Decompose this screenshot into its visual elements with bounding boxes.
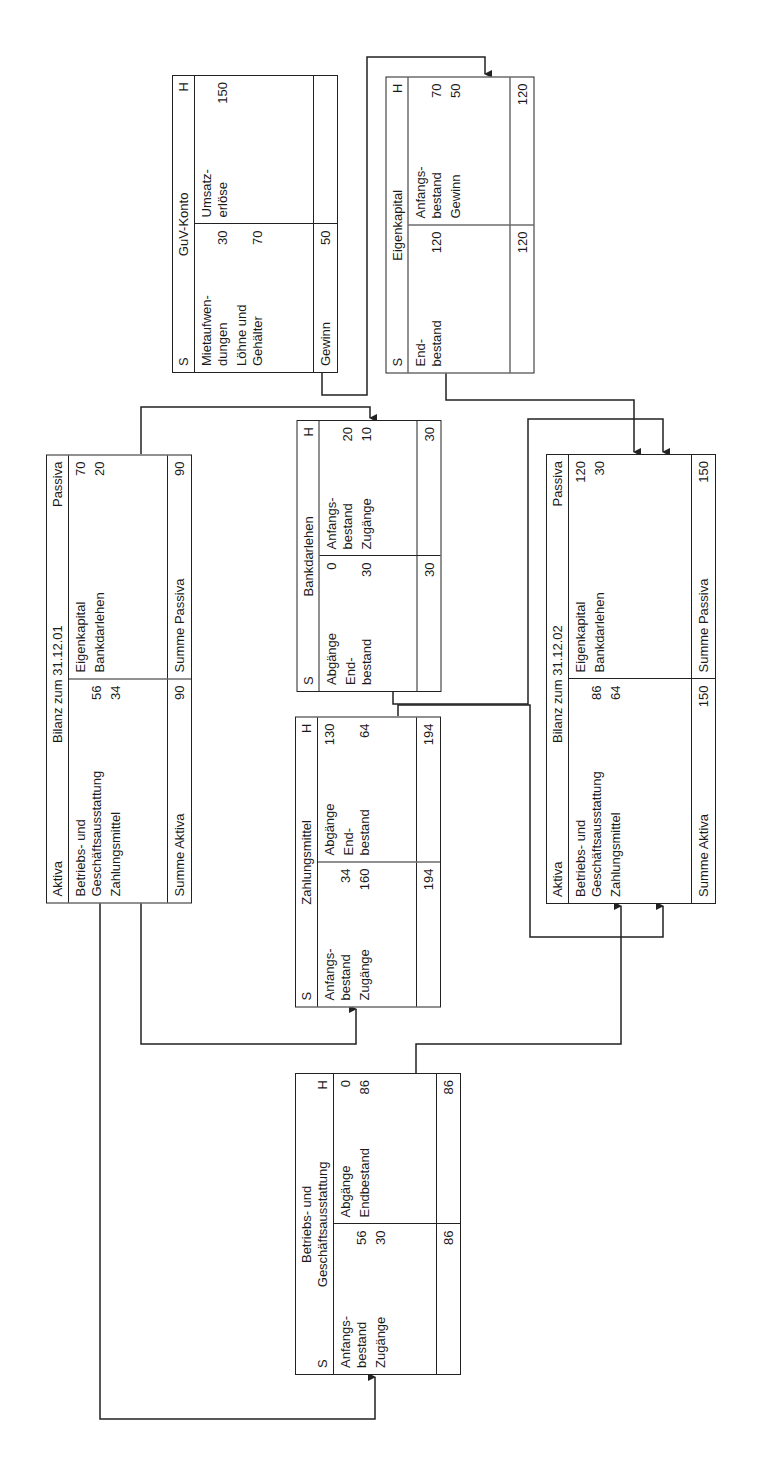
entry-label: Löhne und Gehälter xyxy=(234,305,266,366)
entry-label: End- bestand xyxy=(342,639,374,685)
right-total: 86 xyxy=(436,1074,460,1224)
entry-row: Zugänge160 xyxy=(357,868,373,1000)
left-side: Mietaufwen- dungen30Löhne und Gehälter70… xyxy=(195,224,337,373)
entry-label: Abgänge xyxy=(323,633,339,685)
entry-row: Bankdarlehen20 xyxy=(92,461,108,672)
entry-row: Abgänge0 xyxy=(338,1080,354,1218)
entry-value: 30 xyxy=(215,231,231,253)
entry-row: Zugänge10 xyxy=(358,427,374,550)
guv-account: SGuV-KontoHMietaufwen- dungen30Löhne und… xyxy=(172,75,338,373)
entry-value: 34 xyxy=(108,685,124,707)
entry-label: Betriebs- und Geschäftsausstattung xyxy=(573,771,605,897)
entry-value: 70 xyxy=(73,461,89,483)
entry-value: 30 xyxy=(592,461,608,483)
entry-value: 130 xyxy=(322,723,338,745)
account-title: Bankdarlehen xyxy=(300,436,316,676)
header-left-label: S xyxy=(315,1359,331,1368)
entry-label: Anfangs- bestand xyxy=(338,1316,370,1368)
entry-label: Zugänge xyxy=(358,498,374,549)
left-total: Summe Aktiva150 xyxy=(691,680,715,904)
account-body: Betriebs- und Geschäftsausstattung56Zahl… xyxy=(69,455,191,902)
left-total: 30 xyxy=(416,557,440,692)
left-entries: Betriebs- und Geschäftsausstattung86Zahl… xyxy=(569,680,691,904)
entry-value: 34 xyxy=(338,868,354,890)
zahlungsmittel-account: SZahlungsmittelHAnfangs- bestand34Zugäng… xyxy=(295,716,441,1007)
right-side: Eigenkapital120Bankdarlehen30Summe Passi… xyxy=(569,455,715,679)
entry-label: Gewinn xyxy=(447,174,463,218)
entry-row: Anfangs- bestand34 xyxy=(322,868,354,1000)
left-total: Gewinn50 xyxy=(313,225,337,373)
account-header: AktivaBilanz zum 31.12.01Passiva xyxy=(47,455,69,902)
entry-row: Eigenkapital70 xyxy=(73,461,89,672)
entry-label: Eigenkapital xyxy=(573,602,589,673)
total-value: 194 xyxy=(421,868,436,890)
left-total: Summe Aktiva90 xyxy=(167,679,191,902)
balance-sheet-31-12-01: AktivaBilanz zum 31.12.01PassivaBetriebs… xyxy=(46,454,192,903)
entry-row: Abgänge0 xyxy=(323,563,339,686)
account-title: Eigenkapital xyxy=(389,92,405,357)
entry-label: Anfangs- bestand xyxy=(412,166,444,218)
left-side: Anfangs- bestand34Zugänge160194 xyxy=(318,861,440,1006)
account-body: Abgänge0End- bestand3030Anfangs- bestand… xyxy=(319,421,440,691)
entry-value: 64 xyxy=(357,723,373,745)
entry-label: Eigenkapital xyxy=(73,601,89,672)
total-value: 30 xyxy=(421,563,436,577)
entry-row: Bankdarlehen30 xyxy=(592,461,608,673)
total-value: 90 xyxy=(172,685,187,699)
entry-label: Betriebs- und Geschäftsausstattung xyxy=(73,770,105,896)
account-body: Anfangs- bestand34Zugänge160194Abgänge13… xyxy=(318,717,440,1006)
total-value: 90 xyxy=(172,461,187,475)
entry-value: 70 xyxy=(428,83,444,105)
entry-label: End- bestand xyxy=(341,809,373,855)
entry-row: Eigenkapital120 xyxy=(573,461,589,673)
total-value: 86 xyxy=(441,1231,456,1245)
entry-value: 160 xyxy=(357,868,373,890)
right-entries: Umsatz- erlöse150 xyxy=(195,76,313,224)
entry-value: 86 xyxy=(357,1080,373,1102)
eigenkapital-account: SEigenkapitalHEnd- bestand120120Anfangs-… xyxy=(385,76,534,373)
entry-value: 70 xyxy=(250,231,266,253)
bga-account: SBetriebs- und GeschäftsausstattungHAnfa… xyxy=(295,1073,461,1375)
header-right-label: H xyxy=(315,1080,331,1089)
entry-label: Abgänge xyxy=(338,1165,354,1217)
header-right-label: H xyxy=(389,83,405,92)
right-total: Summe Passiva90 xyxy=(167,455,191,678)
left-total: 194 xyxy=(416,862,440,1006)
entry-label: Zahlungsmittel xyxy=(608,812,624,897)
entry-label: Zugänge xyxy=(357,949,373,1000)
entry-row: Anfangs- bestand70 xyxy=(412,83,444,218)
right-entries: Eigenkapital120Bankdarlehen30 xyxy=(569,455,691,679)
account-header: AktivaBilanz zum 31.12.02Passiva xyxy=(547,455,569,903)
header-right-label: H xyxy=(300,427,316,436)
account-body: Betriebs- und Geschäftsausstattung86Zahl… xyxy=(569,455,715,903)
arrow-bga-to-bilanz02 xyxy=(416,906,621,1073)
right-entries: Anfangs- bestand20Zugänge10 xyxy=(319,421,416,556)
header-right-label: Passiva xyxy=(50,461,66,507)
total-value: 30 xyxy=(421,427,436,441)
account-header: SBetriebs- und GeschäftsausstattungH xyxy=(296,1074,334,1374)
header-left-label: S xyxy=(300,676,316,685)
left-side: End- bestand120120 xyxy=(408,224,533,372)
left-entries: Betriebs- und Geschäftsausstattung56Zahl… xyxy=(69,679,167,902)
entry-label: Anfangs- bestand xyxy=(322,948,354,1000)
left-entries: Anfangs- bestand56Zugänge30 xyxy=(334,1225,436,1375)
entry-row: Anfangs- bestand20 xyxy=(323,427,355,550)
header-left-label: Aktiva xyxy=(50,861,66,896)
account-title: Zahlungsmittel xyxy=(299,732,315,991)
header-left-label: S xyxy=(299,991,315,1000)
balance-sheet-31-12-02: AktivaBilanz zum 31.12.02PassivaBetriebs… xyxy=(546,454,716,904)
account-header: SEigenkapitalH xyxy=(386,77,408,372)
entry-row: Mietaufwen- dungen30 xyxy=(199,231,231,367)
total-label: Summe Passiva xyxy=(696,579,711,673)
entry-row: Umsatz- erlöse150 xyxy=(199,82,231,218)
entry-row: Anfangs- bestand56 xyxy=(338,1231,370,1369)
right-total: Summe Passiva150 xyxy=(691,455,715,679)
right-side: Anfangs- bestand20Zugänge1030 xyxy=(319,421,440,556)
total-label: Gewinn xyxy=(318,322,333,366)
right-entries: Abgänge0Endbestand86 xyxy=(334,1074,436,1224)
entry-row: Zahlungsmittel64 xyxy=(608,686,624,898)
entry-label: Endbestand xyxy=(357,1148,373,1217)
arrow-eigenkapital-to-bilanz02 xyxy=(446,373,634,452)
total-value: 50 xyxy=(318,231,333,245)
entry-value: 30 xyxy=(358,563,374,585)
